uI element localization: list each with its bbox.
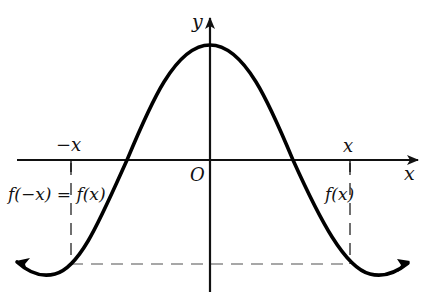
curve-right-arrow-icon <box>397 259 410 272</box>
left-value-annotation: f(−x) = f(x) <box>6 184 106 204</box>
origin-label: O <box>190 164 205 185</box>
neg-x-tick-label: −x <box>56 134 81 155</box>
x-axis-label: x <box>404 162 415 184</box>
pos-x-tick-label: x <box>343 135 353 156</box>
y-axis-label: y <box>191 10 203 32</box>
right-value-annotation: f(x) <box>323 184 354 204</box>
even-function-diagram: y x O −x x f(−x) = f(x) f(x) <box>0 0 426 295</box>
